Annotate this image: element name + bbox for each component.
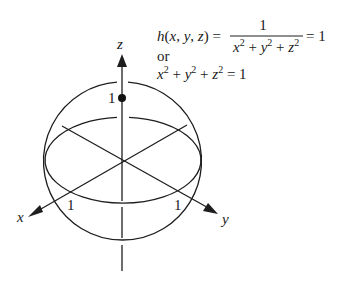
formula-denominator: x2 + y2 + z2 [232,37,299,55]
z-axis [117,54,127,271]
x-axis [28,125,187,217]
x-axis-label: x [16,209,24,225]
y-tick-one: 1 [174,197,182,213]
formula-sphere-equation: x2 + y2 + z2 = 1 [156,64,247,82]
unit-sphere-diagram: z x y 1 1 1 h(x, y, z) = 1 x2 + y2 + z2 … [0,0,342,286]
y-axis [62,126,218,214]
formula-rhs: = 1 [306,28,326,44]
formula-connector: or [157,48,170,64]
z-tick-one: 1 [108,90,116,106]
x-arrow-icon [28,205,43,217]
formula-block: h(x, y, z) = 1 x2 + y2 + z2 = 1 or x2 + … [156,17,326,82]
formula-numerator: 1 [259,17,267,33]
z-arrow-icon [117,54,127,67]
x-tick-one: 1 [67,197,75,213]
point-z-one [118,94,126,102]
y-arrow-icon [203,203,218,214]
formula-lhs: h(x, y, z) = [157,28,221,45]
z-axis-label: z [116,36,123,52]
y-axis-label: y [220,211,229,227]
